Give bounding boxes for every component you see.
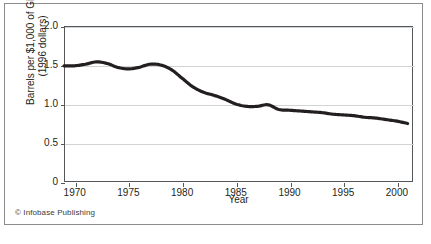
figure-frame: Barrels per $1,000 of GDP (1996 dollars)… (4, 3, 423, 225)
data-line-chart (64, 26, 413, 182)
y-tick-label: 2.0 (30, 21, 58, 31)
x-axis-title: Year (64, 194, 413, 205)
y-tick-label: 1.0 (30, 99, 58, 109)
y-tick-mark (61, 183, 65, 184)
y-tick-label: 0.5 (30, 138, 58, 148)
y-tick-label: 0 (30, 177, 58, 187)
chart-canvas: Barrels per $1,000 of GDP (1996 dollars)… (5, 4, 424, 226)
energy-intensity-line (64, 62, 408, 124)
credit-line: © Infobase Publishing (15, 208, 95, 217)
y-tick-label: 1.5 (30, 60, 58, 70)
